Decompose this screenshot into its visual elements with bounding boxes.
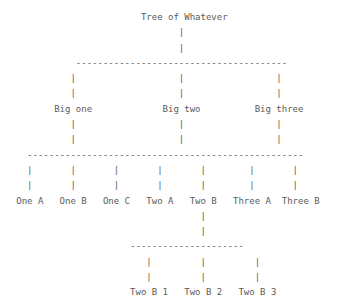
- tree-connector: | | |: [0, 117, 320, 132]
- tree-branch-line: ---------------------: [0, 239, 320, 254]
- tree-connector: |: [0, 25, 320, 40]
- tree-connector: |: [0, 224, 320, 239]
- tree-level1-labels: Big one Big two Big three: [0, 102, 320, 117]
- tree-connector: | | |: [0, 132, 320, 147]
- tree-root-label: Tree of Whatever: [0, 10, 320, 25]
- tree-connector: | | |: [0, 270, 320, 285]
- tree-connector: | | | | | | |: [0, 178, 320, 193]
- ascii-tree-diagram: Tree of Whatever | | -------------------…: [0, 0, 320, 301]
- tree-connector: |: [0, 41, 320, 56]
- tree-connector: |: [0, 209, 320, 224]
- tree-level2-labels: One A One B One C Two A Two B Three A Th…: [0, 194, 320, 209]
- tree-branch-line: ---------------------------------------: [0, 56, 320, 71]
- tree-level3-labels: Two B 1 Two B 2 Two B 3: [0, 285, 320, 300]
- tree-connector: | | | | | | |: [0, 163, 320, 178]
- tree-branch-line: ----------------------------------------…: [0, 148, 320, 163]
- tree-connector: | | |: [0, 255, 320, 270]
- tree-connector: | | |: [0, 71, 320, 86]
- tree-connector: | | |: [0, 86, 320, 101]
